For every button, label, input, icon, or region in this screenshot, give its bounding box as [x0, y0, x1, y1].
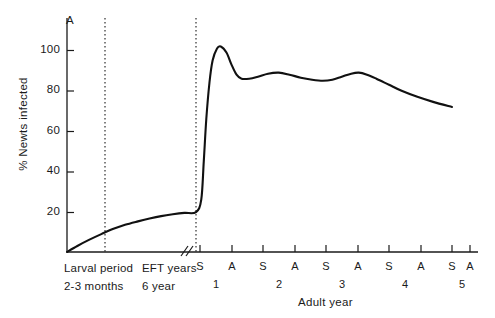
y-tick-label-100: 100 [28, 43, 60, 55]
y-tick-label-80: 80 [28, 83, 60, 95]
y-tick-label-60: 60 [28, 124, 60, 136]
season-label-1a: A [225, 260, 239, 272]
season-label-5a: A [463, 260, 477, 272]
season-label-2a: A [288, 260, 302, 272]
axis-break-icon [181, 246, 193, 256]
eft-years-label-line1: EFT years [142, 262, 197, 274]
season-label-5s: S [445, 260, 459, 272]
y-tick-label-40: 40 [28, 164, 60, 176]
larval-period-label-line1: Larval period [64, 262, 133, 274]
eft-years-label-line2: 6 year [142, 280, 175, 292]
season-label-3s: S [319, 260, 333, 272]
x-axis-ticks [200, 245, 470, 252]
panel-label-a: A [66, 14, 74, 26]
adult-year-label-4: 4 [398, 278, 412, 290]
x-axis-title: Adult year [298, 296, 353, 308]
larval-period-label-line2: 2-3 months [64, 280, 124, 292]
y-tick-label-20: 20 [28, 205, 60, 217]
adult-year-label-3: 3 [335, 278, 349, 290]
y-axis-ticks [67, 51, 74, 213]
season-label-2s: S [256, 260, 270, 272]
adult-year-label-5: 5 [455, 278, 469, 290]
adult-year-label-1: 1 [209, 278, 223, 290]
figure-panel-a: 100 80 60 40 20 % Newts infected A Larva… [0, 0, 495, 318]
season-label-1s: S [193, 260, 207, 272]
infection-curve [67, 46, 452, 252]
season-label-4a: A [414, 260, 428, 272]
y-axis-title: % Newts infected [17, 69, 29, 179]
adult-year-label-2: 2 [272, 278, 286, 290]
season-label-3a: A [351, 260, 365, 272]
season-label-4s: S [382, 260, 396, 272]
